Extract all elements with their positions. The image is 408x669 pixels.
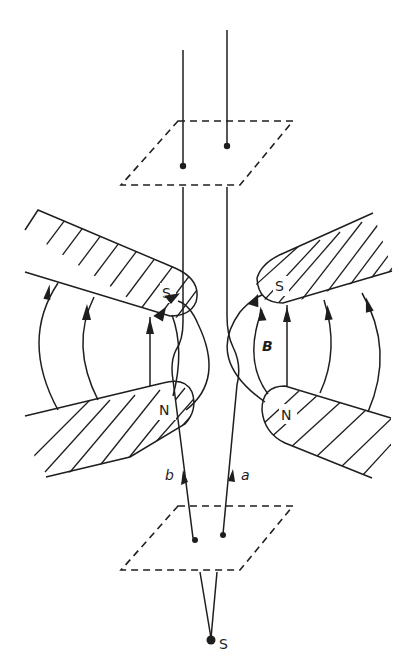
right-south-label: S: [275, 278, 284, 294]
beam-b-dot-upper: [180, 163, 186, 169]
right-north-label: N: [281, 407, 291, 423]
beam-b-label: b: [165, 467, 174, 483]
right-north-pole: N: [262, 386, 395, 478]
beam-b-dot-lower: [192, 537, 198, 543]
source: S: [200, 572, 228, 652]
right-south-pole: S: [250, 213, 400, 315]
right-field-lines: B: [227, 293, 380, 412]
lower-screen: [121, 506, 293, 570]
source-label: S: [219, 636, 228, 652]
field-b-label: B: [262, 338, 273, 354]
beam-a-path: [223, 316, 239, 534]
beam-a-dot-upper: [224, 143, 230, 149]
left-north-label: N: [159, 402, 169, 418]
magnetic-beam-diagram: S N: [0, 0, 408, 669]
left-south-pole: S: [20, 200, 236, 318]
upper-screen: [121, 121, 293, 185]
beam-a-dot-lower: [220, 532, 226, 538]
source-dot: [207, 636, 216, 645]
left-north-pole: N: [25, 381, 210, 478]
beam-a-label: a: [241, 467, 250, 483]
